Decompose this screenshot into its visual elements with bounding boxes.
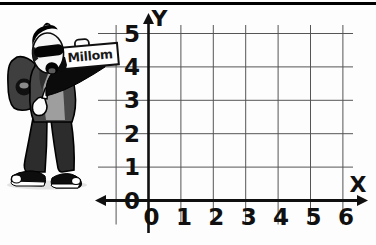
backpack-patch-detail [20, 83, 29, 89]
y-axis-label: Y [151, 6, 169, 31]
right-shoe-toe [72, 178, 81, 185]
character-illustration: Millom [7, 22, 119, 190]
x-tick-label: 5 [305, 204, 321, 230]
right-pant-leg [51, 120, 74, 172]
x-tick-label: 2 [208, 204, 224, 230]
worksheet-canvas: 0123456012345 Y X [0, 0, 376, 245]
grid-layer: 0123456012345 [95, 13, 368, 233]
x-axis-label: X [350, 172, 367, 197]
x-tick-label: 1 [176, 204, 192, 230]
coordinate-grid-figure: 0123456012345 Y X [0, 0, 376, 245]
left-pant-leg [24, 118, 47, 172]
y-tick-label: 1 [124, 154, 140, 180]
y-tick-label: 0 [124, 188, 140, 214]
y-tick-label: 4 [124, 54, 140, 80]
y-tick-label: 2 [124, 121, 140, 147]
x-tick-label: 4 [273, 204, 289, 230]
x-tick-label: 3 [241, 204, 257, 230]
x-axis-left-arrow [95, 195, 106, 206]
x-tick-label: 6 [338, 204, 354, 230]
left-shoe-toe [12, 175, 22, 183]
y-tick-label: 3 [124, 87, 140, 113]
y-tick-label: 5 [124, 21, 140, 47]
x-tick-label: 0 [143, 204, 159, 230]
